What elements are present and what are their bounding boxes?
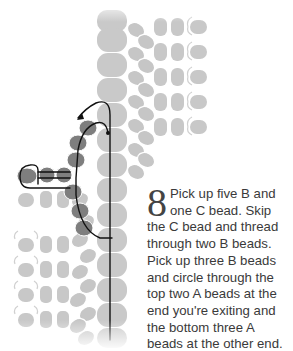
left-bead-grid <box>18 191 69 328</box>
step-number: 8 <box>147 188 167 218</box>
step-text: Pick up five B and one C bead. Skip the … <box>147 186 283 351</box>
right-bead-grid <box>154 18 207 136</box>
b-bead-diagonal-top <box>125 19 158 182</box>
thread-end-dot <box>106 131 110 135</box>
a-bead-column <box>97 10 127 348</box>
step-instruction: 8 Pick up five B and one C bead. Skip th… <box>147 186 293 351</box>
